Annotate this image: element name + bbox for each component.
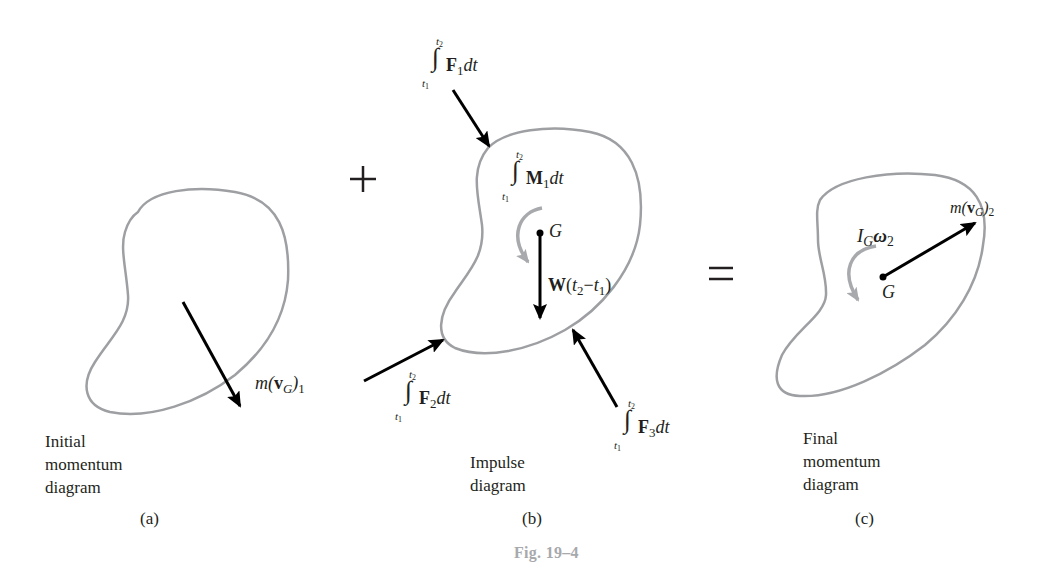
center-label-c: G bbox=[882, 283, 895, 301]
caption-c: Final momentum diagram bbox=[803, 427, 880, 496]
sublabel-a: (a) bbox=[140, 509, 159, 529]
equals-sign bbox=[709, 268, 733, 279]
momentum-arrow-c bbox=[883, 223, 975, 277]
angular-momentum-label: IGω2 bbox=[857, 226, 894, 249]
caption-a: Initial momentum diagram bbox=[45, 430, 122, 499]
impulse-f3-arrow bbox=[573, 330, 617, 407]
momentum-label-c: m(vG)2 bbox=[950, 200, 994, 219]
angular-momentum-arrow bbox=[849, 246, 876, 300]
integral-f3: t2 ∫ F3dt t1 bbox=[612, 397, 752, 452]
sublabel-b: (b) bbox=[522, 509, 542, 529]
figure-title: Fig. 19–4 bbox=[514, 544, 579, 562]
plus-sign bbox=[350, 166, 376, 192]
integral-f1: t2 ∫ F1dt t1 bbox=[420, 35, 560, 90]
integral-f2: t2 ∫ F2dt t1 bbox=[393, 368, 533, 423]
impulse-f1-arrow bbox=[453, 90, 489, 146]
weight-impulse-label: W(t2−t1) bbox=[548, 276, 611, 298]
sublabel-c: (c) bbox=[855, 509, 874, 529]
integral-m1: t2 ∫ M1dt t1 bbox=[500, 148, 640, 203]
center-label-b: G bbox=[549, 222, 562, 240]
caption-b: Impulse diagram bbox=[470, 451, 526, 497]
momentum-label-a: m(vG)1 bbox=[255, 374, 305, 396]
